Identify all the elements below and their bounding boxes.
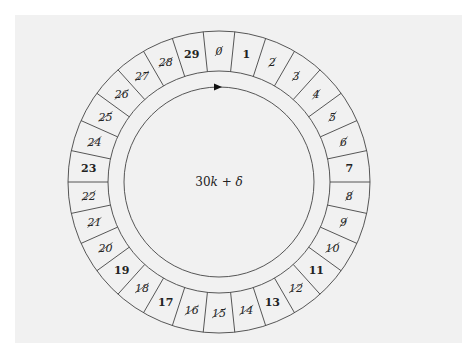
- residue-cell: 19: [114, 264, 129, 277]
- residue-cell: 5: [328, 111, 336, 124]
- residue-cell: 10: [325, 242, 339, 255]
- cell-divider: [320, 121, 357, 137]
- residue-cell: 27: [134, 70, 149, 83]
- residue-cell: 13: [265, 296, 280, 309]
- cell-divider: [172, 288, 184, 326]
- residue-label: 16: [185, 304, 199, 317]
- residue-label: 12: [289, 282, 303, 295]
- residue-cell: 22: [81, 190, 96, 203]
- residue-label: 10: [325, 242, 339, 255]
- residue-cell: 20: [98, 242, 113, 255]
- residue-cell: 25: [98, 111, 113, 124]
- residue-cell: 29: [184, 48, 199, 61]
- residue-cell: 6: [340, 136, 348, 149]
- residue-label: 15: [212, 307, 226, 320]
- cell-divider: [203, 292, 207, 332]
- residue-cell: 21: [86, 216, 101, 229]
- residue-cell: 26: [114, 88, 129, 101]
- residue-cell: 18: [135, 282, 149, 295]
- residue-cell: 11: [309, 264, 324, 277]
- residue-label: 1: [242, 48, 250, 61]
- residue-cell: 8: [345, 190, 353, 203]
- residue-cell: 16: [185, 304, 199, 317]
- cell-divider: [328, 205, 367, 213]
- residue-cell: 3: [292, 70, 300, 83]
- cell-divider: [231, 32, 235, 72]
- residue-label: 18: [135, 282, 149, 295]
- residue-label: 7: [345, 162, 353, 175]
- residue-label: 29: [184, 48, 199, 61]
- residue-cell: 7: [345, 162, 353, 175]
- cell-divider: [231, 292, 235, 332]
- residue-label: 23: [81, 162, 96, 175]
- center-label: 30k + δ: [195, 175, 242, 189]
- residue-label: 17: [158, 296, 173, 309]
- residue-cell: 28: [158, 56, 173, 69]
- residue-cell: 12: [289, 282, 303, 295]
- cell-divider: [253, 38, 265, 76]
- arrowhead-icon: [214, 84, 222, 91]
- cell-divider: [172, 38, 184, 76]
- cell-divider: [71, 205, 110, 213]
- residue-cell: 2: [268, 56, 277, 69]
- residue-label: 13: [265, 296, 280, 309]
- residue-label: 14: [239, 304, 253, 317]
- cell-divider: [71, 151, 110, 159]
- residue-cell: 4: [312, 88, 321, 101]
- cell-divider: [328, 151, 367, 159]
- residue-label: 11: [309, 264, 324, 277]
- residue-label: 19: [114, 264, 129, 277]
- residue-cell: 1: [242, 48, 250, 61]
- residue-cell: 23: [81, 162, 96, 175]
- residue-cell: 17: [158, 296, 173, 309]
- residue-cell: 9: [340, 216, 348, 229]
- residue-cell: 0: [215, 45, 223, 58]
- cell-divider: [203, 32, 207, 72]
- residue-wheel: 0123456789101112131415161718192021222324…: [0, 0, 476, 359]
- residue-cell: 14: [239, 304, 253, 317]
- residue-cell: 24: [86, 136, 101, 149]
- residue-cell: 15: [212, 307, 226, 320]
